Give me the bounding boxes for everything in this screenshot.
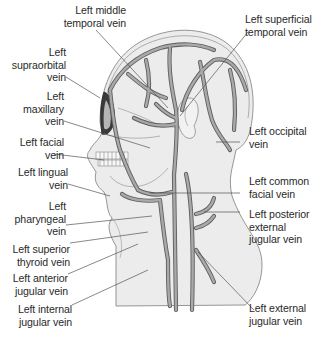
label-left-middle-temporal-vein: Left middle temporal vein — [30, 4, 126, 29]
label-left-superficial-temporal-vein: Left superficial temporal vein — [245, 13, 312, 38]
label-left-internal-jugular-vein: Left internal jugular vein — [0, 303, 72, 328]
label-left-posterior-external-jugular-vein: Left posterior external jugular vein — [249, 208, 309, 246]
label-left-occipital-vein: Left occipital vein — [249, 125, 307, 150]
label-left-facial-vein: Left facial vein — [0, 136, 64, 161]
label-left-external-jugular-vein: Left external jugular vein — [249, 302, 306, 327]
label-left-lingual-vein: Left lingual vein — [0, 166, 68, 191]
label-left-common-facial-vein: Left common facial vein — [249, 175, 309, 200]
label-left-supraorbital-vein: Left supraorbital vein — [0, 46, 66, 84]
label-left-maxillary-vein: Left maxillary vein — [0, 90, 64, 128]
label-left-pharyngeal-vein: Left pharyngeal vein — [0, 200, 66, 238]
label-left-superior-thyroid-vein: Left superior thyroid vein — [0, 243, 70, 268]
label-left-anterior-jugular-vein: Left anterior jugular vein — [0, 272, 68, 297]
